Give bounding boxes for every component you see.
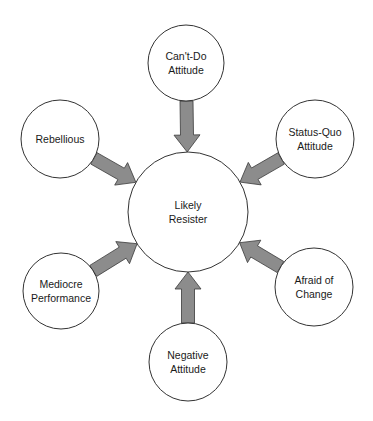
node-afraid: Afraid ofChange bbox=[275, 248, 353, 326]
node-label: Likely bbox=[175, 199, 203, 211]
arrow-icon bbox=[91, 153, 136, 185]
node-label: Attitude bbox=[297, 140, 333, 152]
nodes-layer: Can't-DoAttitudeStatus-QuoAttitudeAfraid… bbox=[21, 25, 354, 401]
node-circle bbox=[148, 25, 224, 101]
node-circle bbox=[276, 100, 354, 178]
arrow-icon bbox=[174, 101, 200, 152]
arrow-icon bbox=[90, 242, 137, 277]
node-label: Resister bbox=[169, 213, 208, 225]
arrow-mediocre-to-center bbox=[90, 242, 137, 277]
node-mediocre: MediocrePerformance bbox=[23, 253, 99, 329]
arrow-icon bbox=[175, 272, 201, 323]
arrow-cant-do-to-center bbox=[174, 101, 200, 152]
node-circle bbox=[275, 248, 353, 326]
node-cant-do: Can't-DoAttitude bbox=[148, 25, 224, 101]
node-label: Negative bbox=[167, 349, 209, 361]
node-label: Can't-Do bbox=[165, 50, 206, 62]
node-circle bbox=[23, 253, 99, 329]
node-circle bbox=[128, 152, 248, 272]
arrow-icon bbox=[240, 153, 284, 185]
node-label: Attitude bbox=[170, 363, 206, 375]
arrow-status-quo-to-center bbox=[240, 153, 284, 185]
arrow-afraid-to-center bbox=[240, 240, 284, 272]
node-label: Change bbox=[296, 288, 333, 300]
node-status-quo: Status-QuoAttitude bbox=[276, 100, 354, 178]
resister-diagram: Can't-DoAttitudeStatus-QuoAttitudeAfraid… bbox=[0, 0, 373, 421]
node-label: Afraid of bbox=[294, 274, 333, 286]
node-label: Mediocre bbox=[39, 278, 82, 290]
node-center-likely-resister: LikelyResister bbox=[128, 152, 248, 272]
arrow-rebellious-to-center bbox=[91, 153, 136, 185]
node-rebellious: Rebellious bbox=[21, 100, 99, 178]
node-label: Rebellious bbox=[35, 133, 84, 145]
node-label: Status-Quo bbox=[288, 126, 341, 138]
node-circle bbox=[149, 323, 227, 401]
node-label: Performance bbox=[31, 292, 91, 304]
node-negative: NegativeAttitude bbox=[149, 323, 227, 401]
arrow-negative-to-center bbox=[175, 272, 201, 323]
node-label: Attitude bbox=[168, 64, 204, 76]
arrow-icon bbox=[240, 240, 284, 272]
